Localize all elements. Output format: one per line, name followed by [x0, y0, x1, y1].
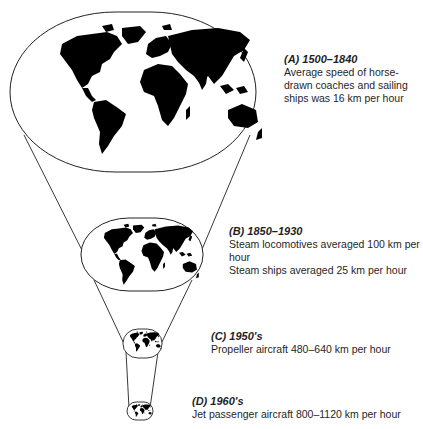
stage-c-label: (C) 1950's Propeller aircraft 480–640 km…	[211, 330, 391, 356]
stage-d-line-1: Jet passenger aircraft 800–1120 km per h…	[192, 408, 401, 421]
stage-b-letter: (B)	[229, 225, 244, 237]
world-map-a	[10, 12, 262, 172]
stage-a-title: (A) 1500–1840	[284, 53, 408, 66]
stage-d-period: 1960's	[210, 395, 243, 407]
stage-d-label: (D) 1960's Jet passenger aircraft 800–11…	[192, 395, 401, 421]
stage-a-label: (A) 1500–1840 Average speed of horse- dr…	[284, 53, 408, 105]
stage-b-line-2: hour	[229, 251, 420, 264]
stage-c-period: 1950's	[229, 330, 262, 342]
world-map-d	[127, 402, 153, 420]
stage-c-title: (C) 1950's	[211, 330, 391, 343]
world-map-b	[81, 218, 203, 291]
stage-c-line-1: Propeller aircraft 480–640 km per hour	[211, 343, 391, 356]
funnel-line-left-cd	[126, 352, 129, 408]
stage-b-label: (B) 1850–1930 Steam locomotives averaged…	[229, 225, 420, 277]
funnel-line-right-cd	[150, 352, 158, 408]
stage-d-letter: (D)	[192, 395, 207, 407]
stage-c-letter: (C)	[211, 330, 226, 342]
stage-a-line-3: ships was 16 km per hour	[284, 92, 408, 105]
stage-d-title: (D) 1960's	[192, 395, 401, 408]
stage-a-period: 1500–1840	[302, 53, 357, 65]
stage-a-line-2: drawn coaches and sailing	[284, 79, 408, 92]
stage-b-period: 1850–1930	[247, 225, 302, 237]
world-map-c	[123, 329, 162, 358]
stage-b-line-1: Steam locomotives averaged 100 km per	[229, 238, 420, 251]
stage-b-title: (B) 1850–1930	[229, 225, 420, 238]
stage-a-letter: (A)	[284, 53, 299, 65]
stage-a-line-1: Average speed of horse-	[284, 66, 408, 79]
stage-b-line-3: Steam ships averaged 25 km per hour	[229, 264, 420, 277]
